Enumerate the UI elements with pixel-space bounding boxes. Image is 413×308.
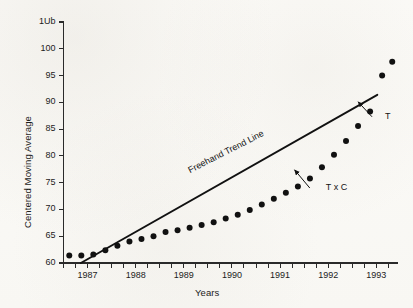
x-axis-title: Years [195,287,219,298]
x-tick-marks-minor [64,263,389,268]
x-tick-label: 1987 [66,270,110,280]
x-tick-label: 1990 [210,270,254,280]
y-tick-label: 60 [18,257,56,267]
y-tick-label: 100 [18,43,56,53]
y-tick-label: 85 [18,123,56,133]
chart-figure: Centered Moving Average Years 6065707580… [0,0,413,308]
data-point-markers [66,59,395,259]
y-tick-label: 90 [18,96,56,106]
y-tick-marks [59,22,64,263]
txc-annotation-label: T x C [326,182,347,192]
x-tick-label: 1992 [306,270,350,280]
y-tick-label: 80 [18,150,56,160]
y-tick-label: 95 [18,70,56,80]
y-tick-label: 65 [18,230,56,240]
t-annotation-label: T [385,111,391,121]
y-tick-label: 70 [18,203,56,213]
y-tick-label: 75 [18,177,56,187]
x-tick-label: 1988 [114,270,158,280]
chart-plot-svg [0,0,413,308]
x-tick-label: 1991 [258,270,302,280]
y-tick-label: 1Ub [18,16,56,26]
x-tick-label: 1993 [354,270,398,280]
trend-line-series [81,95,377,263]
x-tick-label: 1989 [162,270,206,280]
annotation-arrows [295,102,372,188]
